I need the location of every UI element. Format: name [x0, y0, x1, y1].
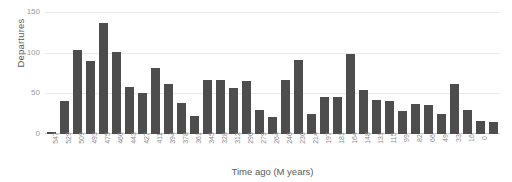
bar[interactable]: [437, 114, 446, 134]
bar-slot[interactable]: [305, 12, 318, 134]
x-tick-slot: 99: [396, 136, 409, 164]
bar-slot[interactable]: [175, 12, 188, 134]
y-axis-tick-label: 50: [0, 89, 40, 97]
bar[interactable]: [60, 101, 69, 134]
bar-slot[interactable]: [162, 12, 175, 134]
bar[interactable]: [359, 90, 368, 134]
bar-slot[interactable]: [383, 12, 396, 134]
bar[interactable]: [151, 68, 160, 134]
bar-slot[interactable]: [123, 12, 136, 134]
bar-slot[interactable]: [461, 12, 474, 134]
bar-slot[interactable]: [84, 12, 97, 134]
bar-slot[interactable]: [292, 12, 305, 134]
x-tick-slot: 529: [58, 136, 71, 164]
y-axis-tick-label: 150: [0, 8, 40, 16]
x-tick-slot: 427: [136, 136, 149, 164]
bar[interactable]: [138, 93, 147, 134]
bar-slot[interactable]: [110, 12, 123, 134]
bar[interactable]: [203, 80, 212, 134]
bar-slot[interactable]: [149, 12, 162, 134]
y-axis-tick-label: 100: [0, 49, 40, 57]
x-tick-slot: 230: [292, 136, 305, 164]
bar-slot[interactable]: [214, 12, 227, 134]
bar-slot[interactable]: [71, 12, 84, 134]
bar-slot[interactable]: [188, 12, 201, 134]
bar[interactable]: [281, 80, 290, 134]
bar[interactable]: [125, 87, 134, 134]
bar[interactable]: [424, 105, 433, 134]
bar-slot[interactable]: [253, 12, 266, 134]
bar[interactable]: [476, 121, 485, 134]
bar-slot[interactable]: [487, 12, 500, 134]
bar[interactable]: [320, 97, 329, 134]
bar-slot[interactable]: [474, 12, 487, 134]
bar-slot[interactable]: [318, 12, 331, 134]
bar[interactable]: [372, 100, 381, 134]
bar-slot[interactable]: [136, 12, 149, 134]
x-tick-slot: 33: [448, 136, 461, 164]
x-tick-slot: 475: [97, 136, 110, 164]
x-tick-slot: 328: [214, 136, 227, 164]
x-tick-slot: 164: [344, 136, 357, 164]
bar[interactable]: [411, 104, 420, 134]
bar[interactable]: [164, 84, 173, 134]
bar[interactable]: [229, 88, 238, 134]
x-tick-slot: 547: [45, 136, 58, 164]
bar-slot[interactable]: [435, 12, 448, 134]
bar[interactable]: [398, 111, 407, 134]
bar[interactable]: [385, 101, 394, 134]
x-tick-slot: 378: [175, 136, 188, 164]
bar-series: [45, 12, 500, 134]
x-tick-slot: 181: [331, 136, 344, 164]
bar-slot[interactable]: [409, 12, 422, 134]
x-tick-slot: 279: [253, 136, 266, 164]
bar-slot[interactable]: [201, 12, 214, 134]
x-tick-slot: 148: [357, 136, 370, 164]
bar-slot[interactable]: [279, 12, 292, 134]
x-tick-slot: 197: [318, 136, 331, 164]
bar-slot[interactable]: [422, 12, 435, 134]
bar[interactable]: [112, 52, 121, 134]
bar[interactable]: [450, 84, 459, 134]
bar-slot[interactable]: [240, 12, 253, 134]
bar-slot[interactable]: [331, 12, 344, 134]
bar-slot[interactable]: [357, 12, 370, 134]
x-tick-slot: 493: [84, 136, 97, 164]
bar[interactable]: [73, 50, 82, 134]
bar[interactable]: [346, 54, 355, 134]
x-tick-slot: 312: [227, 136, 240, 164]
bar[interactable]: [177, 103, 186, 134]
x-tick-slot: [487, 136, 500, 164]
x-tick-slot: 16: [461, 136, 474, 164]
departures-bar-chart: Departures 050100150 5475295094934754604…: [0, 0, 512, 182]
bar[interactable]: [242, 81, 251, 134]
bar[interactable]: [463, 110, 472, 134]
x-axis-tick-labels: 5475295094934754604434274113943783613453…: [45, 136, 500, 164]
x-tick-slot: 131: [370, 136, 383, 164]
bar-slot[interactable]: [396, 12, 409, 134]
bar-slot[interactable]: [344, 12, 357, 134]
bar[interactable]: [216, 80, 225, 134]
x-axis-title: Time ago (M years): [45, 166, 500, 177]
x-tick-slot: 411: [149, 136, 162, 164]
bar-slot[interactable]: [266, 12, 279, 134]
plot-area: 050100150: [45, 12, 500, 134]
bar[interactable]: [294, 60, 303, 134]
bar[interactable]: [489, 122, 498, 134]
bar[interactable]: [99, 23, 108, 134]
bar-slot[interactable]: [448, 12, 461, 134]
bar[interactable]: [333, 97, 342, 134]
bar[interactable]: [86, 61, 95, 134]
bar-slot[interactable]: [58, 12, 71, 134]
bar-slot[interactable]: [97, 12, 110, 134]
x-tick-slot: 214: [305, 136, 318, 164]
bar[interactable]: [255, 110, 264, 134]
x-tick-slot: 509: [71, 136, 84, 164]
bar-slot[interactable]: [45, 12, 58, 134]
bar-slot[interactable]: [227, 12, 240, 134]
x-tick-slot: 460: [110, 136, 123, 164]
x-tick-slot: 345: [201, 136, 214, 164]
x-tick-slot: 49: [435, 136, 448, 164]
x-tick-slot: 66: [422, 136, 435, 164]
bar-slot[interactable]: [370, 12, 383, 134]
